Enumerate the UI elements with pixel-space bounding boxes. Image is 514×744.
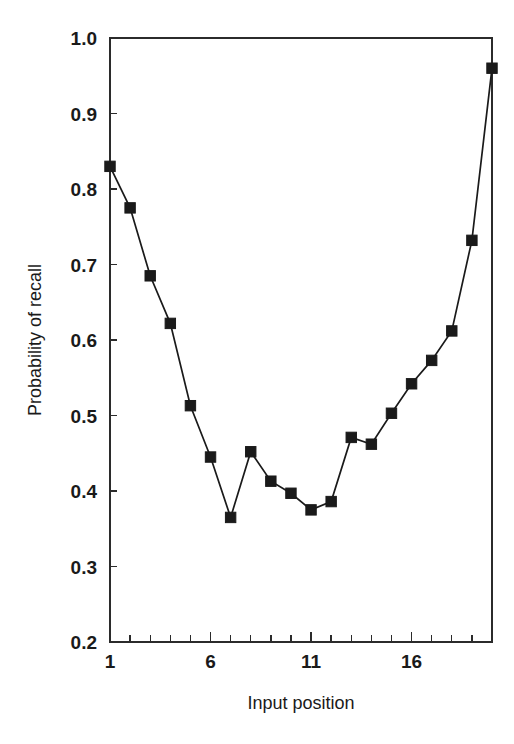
x-axis-tick-label: 16	[401, 651, 422, 672]
y-axis-tick-label: 0.2	[71, 632, 97, 653]
data-point-marker: position 9: 0.413	[266, 476, 276, 486]
data-point-marker: position 6: 0.445	[205, 452, 215, 462]
data-point-marker: position 16: 0.542	[406, 379, 416, 389]
y-axis-tick-label: 0.8	[71, 179, 97, 200]
data-point-marker: position 17: 0.573	[426, 355, 436, 365]
chart-figure: 1.00.90.80.70.60.50.40.30.2 161116 posit…	[0, 0, 514, 744]
data-point-marker: position 3: 0.685	[145, 271, 155, 281]
data-point-marker: position 19: 0.732	[467, 235, 477, 245]
y-axis-tick-label: 0.3	[71, 557, 97, 578]
x-axis-tick-label: 1	[105, 651, 116, 672]
data-point-marker: position 4: 0.622	[165, 318, 175, 328]
y-axis-tick-label: 0.5	[71, 406, 98, 427]
y-axis-title: Probability of recall	[25, 264, 45, 416]
y-axis-tick-label: 0.9	[71, 104, 97, 125]
data-point-marker: position 10: 0.397	[286, 488, 296, 498]
data-point-marker: position 18: 0.612	[447, 326, 457, 336]
y-axis-tick-label: 1.0	[71, 28, 97, 49]
data-point-marker: position 2: 0.775	[125, 203, 135, 213]
x-axis-title: Input position	[247, 693, 354, 713]
data-point-marker: position 7: 0.365	[225, 512, 235, 522]
data-point-marker: position 5: 0.513	[185, 400, 195, 410]
x-axis-tick-label: 6	[205, 651, 216, 672]
data-point-marker: position 15: 0.503	[386, 408, 396, 418]
data-point-marker: position 8: 0.452	[246, 447, 256, 457]
data-point-marker: position 20: 0.96	[487, 63, 497, 73]
data-point-marker: position 11: 0.375	[306, 505, 316, 515]
data-point-marker: position 1: 0.83	[105, 161, 115, 171]
y-axis-tick-label: 0.6	[71, 330, 97, 351]
data-point-marker: position 14: 0.462	[366, 439, 376, 449]
x-axis-tick-label: 11	[301, 651, 322, 672]
serial-position-curve-chart: 1.00.90.80.70.60.50.40.30.2 161116 posit…	[0, 0, 514, 744]
y-axis-tick-label: 0.7	[71, 255, 97, 276]
data-point-marker: position 13: 0.471	[346, 432, 356, 442]
data-point-marker: position 12: 0.386	[326, 496, 336, 506]
y-axis-tick-label: 0.4	[71, 481, 98, 502]
